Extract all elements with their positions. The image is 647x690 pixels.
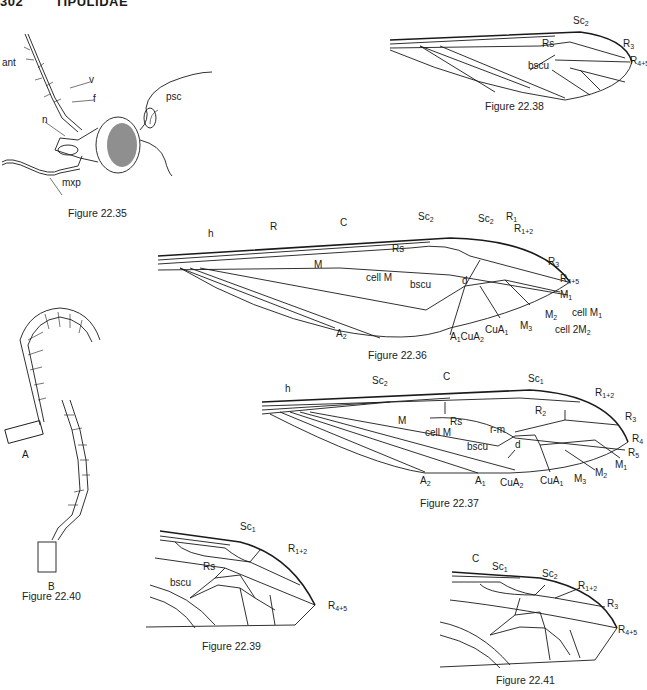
svg-text:M1: M1 <box>560 289 572 301</box>
svg-text:Sc1: Sc1 <box>492 561 508 573</box>
wing-illustration: h Sc2 C Sc1 R1+2 R2 Rs r-m M cell M bscu… <box>250 370 647 500</box>
label-h: h <box>285 383 291 394</box>
label-d: d <box>462 275 468 286</box>
figure-22-41: C Sc1 Sc2 R1+2 R3 R4+5 <box>420 520 647 680</box>
svg-text:R1: R1 <box>506 211 517 223</box>
label-bscu: bscu <box>467 441 488 452</box>
figure-22-35: ant v f psc n mxp <box>0 20 220 200</box>
svg-text:Sc1: Sc1 <box>240 521 256 533</box>
svg-text:M1: M1 <box>615 459 627 471</box>
svg-text:R4+5: R4+5 <box>328 600 347 612</box>
svg-text:R2: R2 <box>535 405 546 417</box>
svg-text:M3: M3 <box>520 320 532 332</box>
figure-22-36: h R C Sc2 Sc2 R1 R1+2 Rs M cell M R3 R4+… <box>150 200 647 360</box>
label-bscu: bscu <box>170 577 191 588</box>
wing-illustration: Sc1 R1+2 Rs bscu R4+5 <box>130 500 350 650</box>
label-h: h <box>208 228 214 239</box>
label-m: M <box>314 259 322 270</box>
label-cell-m: cell M <box>425 427 451 438</box>
wing-illustration: h R C Sc2 Sc2 R1 R1+2 Rs M cell M R3 R4+… <box>150 200 647 360</box>
caption-22-37: Figure 22.37 <box>420 497 479 509</box>
label-mxp: mxp <box>62 177 81 188</box>
svg-text:Sc2: Sc2 <box>372 375 388 387</box>
label-rs: Rs <box>450 416 462 427</box>
svg-text:R1+2: R1+2 <box>288 543 307 555</box>
label-c: C <box>340 217 347 228</box>
wing-illustration: Sc2 Rs bscu R3 R4+5 <box>380 0 647 140</box>
caption-22-41: Figure 22.41 <box>496 674 555 686</box>
svg-text:R1+2: R1+2 <box>595 387 614 399</box>
svg-text:R3: R3 <box>548 256 559 268</box>
label-psc: psc <box>166 91 182 102</box>
label-a: A <box>22 449 29 460</box>
svg-text:M2: M2 <box>545 309 557 321</box>
label-c: C <box>472 553 479 564</box>
label-v: v <box>89 74 94 85</box>
label-r3: R <box>623 38 630 49</box>
svg-text:R4+5: R4+5 <box>618 624 637 636</box>
svg-text:A2: A2 <box>336 328 347 340</box>
caption-22-36: Figure 22.36 <box>368 349 427 361</box>
svg-text:Sc2: Sc2 <box>418 211 434 223</box>
label-r45: R <box>630 55 637 66</box>
section-title: TIPULIDAE <box>55 0 128 9</box>
svg-text:R5: R5 <box>628 447 639 459</box>
label-c: C <box>443 371 450 382</box>
label-rm: r-m <box>490 424 505 435</box>
label-f: f <box>93 93 96 104</box>
label-ant: ant <box>2 57 16 68</box>
svg-text:A1CuA2: A1CuA2 <box>450 331 484 343</box>
svg-text:cell 2M2: cell 2M2 <box>555 324 591 336</box>
label-m: M <box>398 415 406 426</box>
svg-text:CuA1: CuA1 <box>540 475 563 487</box>
svg-text:R4+5: R4+5 <box>560 273 579 285</box>
svg-text:A2: A2 <box>420 475 431 487</box>
caption-22-38: Figure 22.38 <box>485 100 544 112</box>
label-cell-m: cell M <box>366 272 392 283</box>
svg-text:R4: R4 <box>632 433 643 445</box>
label-bscu: bscu <box>528 60 549 71</box>
label-r: R <box>270 221 277 232</box>
svg-text:R3: R3 <box>607 598 618 610</box>
caption-22-40: Figure 22.40 <box>22 590 81 602</box>
label-sc2: Sc <box>573 15 585 26</box>
svg-text:CuA1: CuA1 <box>485 324 508 336</box>
svg-text:R1+2: R1+2 <box>578 580 597 592</box>
svg-text:CuA2: CuA2 <box>500 477 523 489</box>
label-rs: Rs <box>542 38 554 49</box>
svg-text:cell M1: cell M1 <box>572 307 602 319</box>
svg-text:R3: R3 <box>623 38 634 50</box>
label-d: d <box>515 439 521 450</box>
svg-text:R1+2: R1+2 <box>514 223 533 235</box>
page-number: 302 <box>0 0 23 9</box>
svg-text:M3: M3 <box>574 473 586 485</box>
caption-22-39: Figure 22.39 <box>202 640 261 652</box>
head-illustration: ant v f psc n mxp <box>0 20 220 200</box>
svg-text:R3: R3 <box>625 411 636 423</box>
label-rs: Rs <box>392 243 404 254</box>
svg-text:A1: A1 <box>475 475 486 487</box>
figure-22-39: Sc1 R1+2 Rs bscu R4+5 <box>130 500 350 650</box>
svg-text:M2: M2 <box>595 467 607 479</box>
label-bscu: bscu <box>410 279 431 290</box>
svg-text:Sc1: Sc1 <box>528 373 544 385</box>
figure-22-37: h Sc2 C Sc1 R1+2 R2 Rs r-m M cell M bscu… <box>250 370 647 500</box>
label-n: n <box>42 114 48 125</box>
caption-22-35: Figure 22.35 <box>68 207 127 219</box>
svg-text:R4+5: R4+5 <box>630 55 647 67</box>
svg-text:Sc2: Sc2 <box>478 213 494 225</box>
svg-text:Sc2: Sc2 <box>542 568 558 580</box>
label-rs: Rs <box>203 561 215 572</box>
figure-22-38: Sc2 Rs bscu R3 R4+5 <box>380 0 647 140</box>
svg-text:Sc2: Sc2 <box>573 15 589 27</box>
wing-illustration: C Sc1 Sc2 R1+2 R3 R4+5 <box>420 520 647 680</box>
